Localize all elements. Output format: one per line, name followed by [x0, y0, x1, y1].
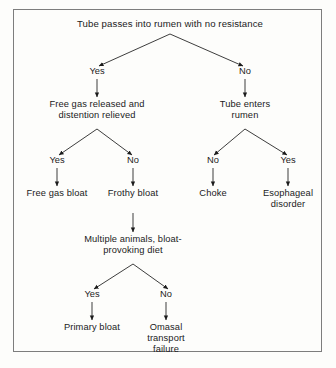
- node-tube-enters-rumen: Tube enters rumen: [209, 99, 281, 121]
- edge-label-root-no: No: [239, 66, 251, 77]
- edge-label-tube-no: No: [207, 155, 219, 166]
- node-omasal-transport-failure: Omasal transport failure: [136, 322, 196, 356]
- edge-label-tube-yes: Yes: [280, 155, 295, 166]
- node-root: Tube passes into rumen with no resistanc…: [77, 18, 263, 29]
- node-primary-bloat: Primary bloat: [63, 322, 121, 333]
- edge-label-free-gas-yes: Yes: [49, 155, 64, 166]
- flowchart-page: Tube passes into rumen with no resistanc…: [0, 0, 336, 368]
- node-free-gas-released: Free gas released and distention relieve…: [37, 99, 157, 121]
- edge-label-free-gas-no: No: [127, 155, 139, 166]
- edge-label-multiple-no: No: [160, 289, 172, 300]
- edge-label-root-yes: Yes: [89, 66, 104, 77]
- node-choke: Choke: [199, 188, 226, 199]
- node-frothy-bloat: Frothy bloat: [105, 188, 161, 199]
- node-esophageal-disorder: Esophageal disorder: [254, 188, 322, 210]
- node-multiple-animals: Multiple animals, bloat-provoking diet: [80, 234, 186, 256]
- node-free-gas-bloat: Free gas bloat: [25, 188, 89, 199]
- flowchart-connectors: [0, 0, 336, 368]
- edge-label-multiple-yes: Yes: [84, 289, 99, 300]
